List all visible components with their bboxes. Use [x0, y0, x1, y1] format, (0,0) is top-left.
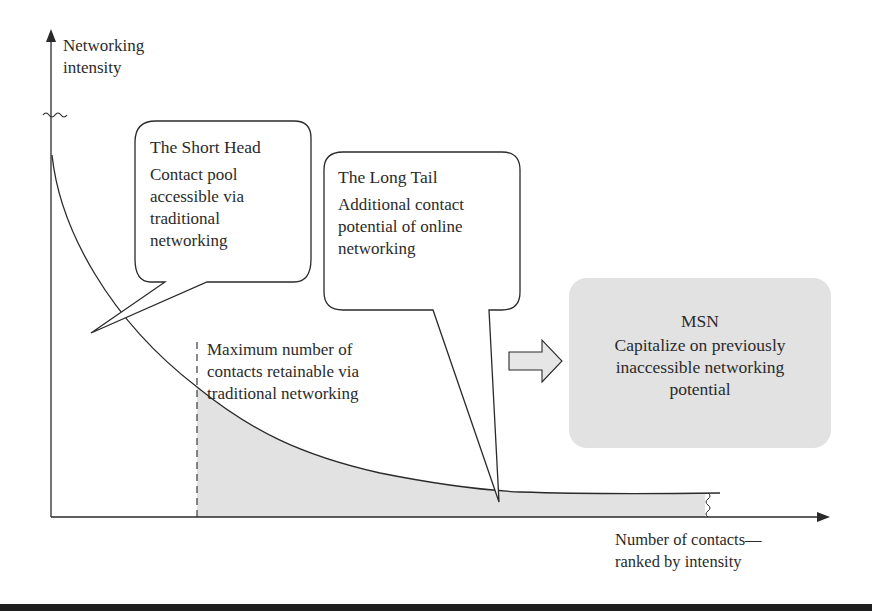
bottom-rule [0, 604, 872, 611]
short-head-body-line: Contact pool [150, 164, 261, 186]
long-tail-body-line: networking [338, 238, 464, 260]
msn-body-line: Capitalize on previously [569, 334, 831, 356]
y-axis-break-icon [43, 113, 67, 117]
threshold-note-line: contacts retainable via [207, 361, 359, 383]
y-axis-label: Networking intensity [63, 35, 144, 79]
x-axis-label-line: ranked by intensity [615, 551, 762, 573]
short-head-title: The Short Head [150, 136, 261, 158]
long-tail-body-line: Additional contact [338, 194, 464, 216]
msn-body-line: potential [569, 378, 831, 400]
x-axis-arrowhead-icon [817, 512, 830, 522]
threshold-note-line: traditional networking [207, 383, 359, 405]
long-tail-callout: The Long Tail Additional contact potenti… [338, 166, 464, 260]
threshold-note: Maximum number of contacts retainable vi… [207, 339, 359, 405]
msn-body-line: inaccessible networking [569, 356, 831, 378]
y-axis-label-line: Networking [63, 35, 144, 57]
short-head-body-line: traditional [150, 208, 261, 230]
right-arrow-icon [509, 340, 562, 382]
short-head-body: Contact pool accessible via traditional … [150, 164, 261, 252]
msn-title: MSN [569, 310, 831, 332]
x-axis-label: Number of contacts— ranked by intensity [615, 529, 762, 573]
short-head-callout: The Short Head Contact pool accessible v… [150, 136, 261, 252]
x-axis-label-line: Number of contacts— [615, 529, 762, 551]
long-tail-body-line: potential of online [338, 216, 464, 238]
short-head-body-line: accessible via [150, 186, 261, 208]
threshold-note-line: Maximum number of [207, 339, 359, 361]
x-axis-break-icon [706, 493, 710, 517]
short-head-body-line: networking [150, 230, 261, 252]
long-tail-body: Additional contact potential of online n… [338, 194, 464, 260]
y-axis-arrowhead-icon [46, 29, 56, 42]
long-tail-title: The Long Tail [338, 166, 464, 188]
msn-box: MSN Capitalize on previously inaccessibl… [569, 278, 831, 448]
y-axis-label-line: intensity [63, 57, 144, 79]
